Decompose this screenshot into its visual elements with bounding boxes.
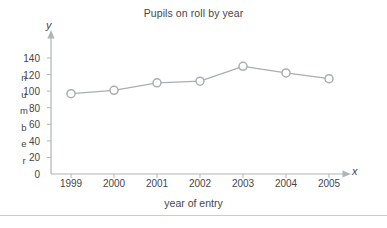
data-point-marker bbox=[325, 75, 333, 83]
x-tick-marks bbox=[71, 174, 329, 178]
data-point-marker bbox=[239, 62, 247, 70]
data-point-marker bbox=[110, 86, 118, 94]
data-point-marker bbox=[282, 69, 290, 77]
data-point-marker bbox=[196, 77, 204, 85]
series-markers bbox=[67, 62, 333, 97]
y-axis-arrow-icon bbox=[47, 30, 54, 39]
bottom-divider bbox=[0, 215, 387, 216]
plot-area bbox=[0, 0, 387, 228]
data-point-marker bbox=[67, 90, 75, 98]
chart-figure: Pupils on roll by year y x n u m b e r 1… bbox=[0, 0, 387, 228]
x-axis-arrow-icon bbox=[343, 170, 352, 177]
data-point-marker bbox=[153, 79, 161, 87]
